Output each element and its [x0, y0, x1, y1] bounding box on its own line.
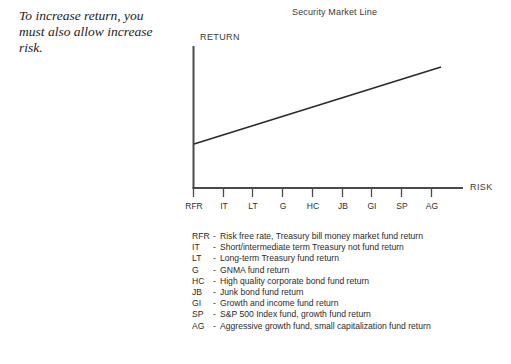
legend-key: AG	[192, 321, 213, 332]
legend-row: HC - High quality corporate bond fund re…	[192, 276, 431, 287]
security-market-line-series	[194, 67, 441, 144]
legend-row: G - GNMA fund return	[192, 265, 431, 276]
legend-row: RFR - Risk free rate, Treasury bill mone…	[192, 231, 431, 242]
legend-key: IT	[192, 242, 213, 253]
legend-description: S&P 500 Index fund, growth fund return	[220, 309, 371, 320]
legend-dash: -	[213, 265, 220, 276]
tick-label-gi: GI	[368, 201, 377, 211]
legend-dash: -	[213, 276, 220, 287]
legend-description: Aggressive growth fund, small capitaliza…	[220, 321, 431, 332]
tick-label-g: G	[280, 201, 287, 211]
tick-label-it: IT	[220, 201, 228, 211]
tick-label-sp: SP	[396, 201, 407, 211]
legend-dash: -	[213, 287, 220, 298]
legend-row: JB - Junk bond fund return	[192, 287, 431, 298]
tick-label-lt: LT	[248, 201, 257, 211]
legend-row: LT - Long-term Treasury fund return	[192, 253, 431, 264]
legend-row: AG - Aggressive growth fund, small capit…	[192, 321, 431, 332]
legend-key: G	[192, 265, 213, 276]
legend-description: High quality corporate bond fund return	[220, 276, 369, 287]
legend-key: HC	[192, 276, 213, 287]
legend-description: GNMA fund return	[220, 265, 289, 276]
legend-dash: -	[213, 309, 220, 320]
legend-key: LT	[192, 253, 213, 264]
legend-description: Growth and income fund return	[220, 298, 338, 309]
x-axis-ticks	[194, 188, 432, 197]
legend-dash: -	[213, 253, 220, 264]
legend-description: Short/intermediate term Treasury not fun…	[220, 242, 404, 253]
legend-dash: -	[213, 298, 220, 309]
legend-dash: -	[213, 321, 220, 332]
legend-dash: -	[213, 231, 220, 242]
tick-label-jb: JB	[338, 201, 348, 211]
legend-description: Junk bond fund return	[220, 287, 304, 298]
legend-row: SP - S&P 500 Index fund, growth fund ret…	[192, 309, 431, 320]
legend-row: IT - Short/intermediate term Treasury no…	[192, 242, 431, 253]
legend-key: SP	[192, 309, 213, 320]
x-axis-title: RISK	[470, 182, 493, 192]
tick-label-rfr: RFR	[185, 201, 202, 211]
legend-row: GI - Growth and income fund return	[192, 298, 431, 309]
tick-label-hc: HC	[307, 201, 319, 211]
legend-dash: -	[213, 242, 220, 253]
security-market-line-figure: To increase return, you must also allow …	[0, 0, 511, 364]
tick-label-ag: AG	[426, 201, 438, 211]
legend-description: Long-term Treasury fund return	[220, 253, 339, 264]
legend-key: RFR	[192, 231, 213, 242]
legend-key: JB	[192, 287, 213, 298]
legend-description: Risk free rate, Treasury bill money mark…	[220, 231, 423, 242]
y-axis-title: RETURN	[200, 32, 240, 42]
legend: RFR - Risk free rate, Treasury bill mone…	[192, 231, 431, 332]
legend-key: GI	[192, 298, 213, 309]
